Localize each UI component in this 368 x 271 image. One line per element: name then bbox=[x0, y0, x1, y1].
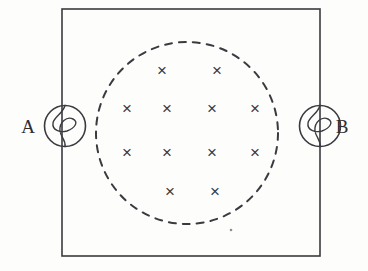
field-into-page-cross-icon: × bbox=[165, 182, 175, 201]
lamp-filament-icon bbox=[53, 106, 76, 147]
component-label-b: B bbox=[336, 116, 349, 137]
field-marks-group: ×××××××××××× bbox=[122, 61, 260, 201]
circuit-loop-rectangle bbox=[62, 9, 320, 256]
component-lamp-a: A bbox=[21, 106, 85, 147]
scan-speck bbox=[230, 229, 233, 232]
component-lamp-b: B bbox=[300, 106, 349, 147]
field-into-page-cross-icon: × bbox=[210, 182, 220, 201]
field-into-page-cross-icon: × bbox=[122, 99, 132, 118]
field-into-page-cross-icon: × bbox=[122, 143, 132, 162]
field-into-page-cross-icon: × bbox=[207, 143, 217, 162]
field-into-page-cross-icon: × bbox=[162, 99, 172, 118]
field-into-page-cross-icon: × bbox=[250, 99, 260, 118]
magnetic-field-region-circle bbox=[96, 42, 278, 224]
field-into-page-cross-icon: × bbox=[162, 143, 172, 162]
physics-diagram: ×××××××××××× AB bbox=[0, 0, 368, 271]
component-label-a: A bbox=[21, 116, 35, 137]
field-into-page-cross-icon: × bbox=[157, 61, 167, 80]
field-into-page-cross-icon: × bbox=[207, 99, 217, 118]
components-group: AB bbox=[21, 106, 348, 147]
scan-artifacts-group bbox=[230, 229, 233, 232]
lamp-outline-icon bbox=[45, 106, 86, 147]
field-into-page-cross-icon: × bbox=[212, 61, 222, 80]
field-into-page-cross-icon: × bbox=[250, 143, 260, 162]
diagram-canvas: ×××××××××××× AB bbox=[0, 0, 368, 271]
